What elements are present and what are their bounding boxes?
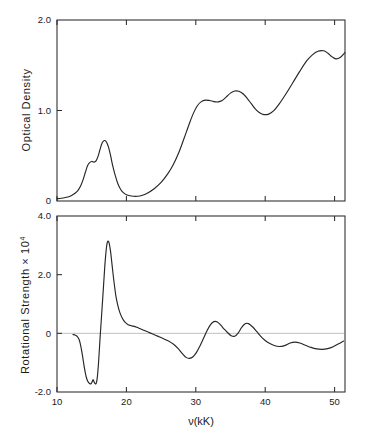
y-tick-labels-bottom: -2.002.04.0 — [35, 210, 51, 397]
y-axis-title-top: Optical Density — [20, 69, 32, 152]
y-tick-label: -2.0 — [35, 386, 51, 397]
y-tick-label: 2.0 — [38, 269, 51, 280]
spectra-figure: 01.02.0 Optical Density -2.002.04.0 1020… — [0, 0, 365, 440]
rotational-strength-curve — [73, 241, 344, 384]
y-tick-label: 1.0 — [38, 105, 51, 116]
y-tick-label: 4.0 — [38, 210, 51, 221]
optical-density-curve — [57, 51, 345, 199]
x-tick-label: 20 — [121, 396, 132, 407]
x-tick-label: 50 — [329, 396, 340, 407]
y-axis-title-bottom: Rotational Strength × 104 — [19, 236, 31, 374]
x-tick-label: 40 — [260, 396, 271, 407]
y-axis-title-exponent: 4 — [19, 236, 26, 241]
panel-optical-density: 01.02.0 Optical Density — [20, 14, 345, 206]
x-tick-label: 10 — [52, 396, 63, 407]
y-axis-title-bottom-text: Rotational Strength × 10 — [19, 241, 31, 374]
y-tick-label: 0 — [46, 328, 51, 339]
figure-container: 01.02.0 Optical Density -2.002.04.0 1020… — [0, 0, 365, 440]
axis-ticks-top — [57, 20, 335, 201]
x-tick-label: 30 — [191, 396, 202, 407]
x-axis-title: ν(kK) — [188, 415, 214, 427]
x-tick-labels: 1020304050 — [52, 396, 340, 407]
y-tick-label: 2.0 — [38, 14, 51, 25]
y-tick-labels-top: 01.02.0 — [38, 14, 51, 206]
plot-frame-top — [57, 20, 345, 201]
y-tick-label: 0 — [46, 195, 51, 206]
panel-rotational-strength: -2.002.04.0 1020304050 Rotational Streng… — [19, 210, 345, 427]
plot-frame-bottom — [57, 216, 345, 392]
